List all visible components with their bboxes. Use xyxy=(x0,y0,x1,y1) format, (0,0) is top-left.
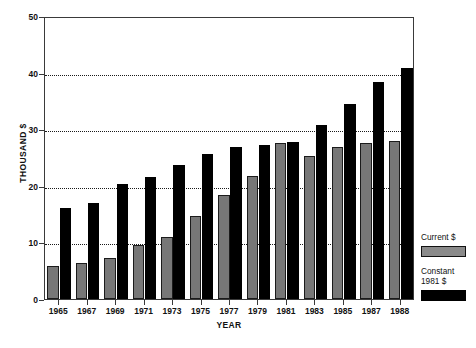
x-tick-label: 1969 xyxy=(106,306,125,316)
bar-constant xyxy=(373,82,384,299)
x-tick-label: 1965 xyxy=(49,306,68,316)
bar-current xyxy=(247,176,258,299)
bar-constant xyxy=(173,165,184,299)
bar-current xyxy=(47,266,58,299)
bar-constant xyxy=(344,104,355,299)
bar-chart: THOUSAND $ 01020304050 19651967196919711… xyxy=(0,0,476,348)
x-tick-label: 1977 xyxy=(220,306,239,316)
x-tick-label: 1981 xyxy=(276,306,295,316)
bar-current xyxy=(218,195,229,299)
bar-constant xyxy=(88,203,99,299)
bar-current xyxy=(133,245,144,299)
bar-current xyxy=(304,156,315,299)
x-tick-label: 1987 xyxy=(362,306,381,316)
legend: Current $Constant 1981 $ xyxy=(421,232,476,310)
x-tick-label: 1967 xyxy=(77,306,96,316)
x-tick-mark xyxy=(400,300,401,305)
bar-group xyxy=(275,18,299,299)
bar-constant xyxy=(202,154,213,299)
bar-current xyxy=(275,143,286,299)
bar-current xyxy=(190,216,201,299)
legend-swatch-constant xyxy=(421,290,466,301)
bar-constant xyxy=(401,68,412,299)
bar-group xyxy=(190,18,214,299)
legend-swatch-current xyxy=(421,246,466,257)
bar-group xyxy=(360,18,384,299)
x-tick-mark xyxy=(314,300,315,305)
x-tick-label: 1975 xyxy=(191,306,210,316)
bar-group xyxy=(218,18,242,299)
bar-constant xyxy=(230,147,241,299)
y-tick-label: 50 xyxy=(8,12,38,22)
bar-group xyxy=(389,18,413,299)
bar-group xyxy=(76,18,100,299)
plot-area xyxy=(44,17,414,300)
legend-label: Current $ xyxy=(421,232,476,243)
bar-group xyxy=(304,18,328,299)
y-tick-label: 10 xyxy=(8,238,38,248)
x-tick-mark xyxy=(201,300,202,305)
y-tick-label: 0 xyxy=(8,295,38,305)
x-tick-mark xyxy=(172,300,173,305)
y-tick-label: 40 xyxy=(8,69,38,79)
bar-current xyxy=(332,147,343,299)
bar-constant xyxy=(117,184,128,299)
bar-current xyxy=(389,141,400,299)
bar-group xyxy=(332,18,356,299)
x-tick-label: 1979 xyxy=(248,306,267,316)
legend-entry: Current $ xyxy=(421,232,476,257)
bar-constant xyxy=(259,145,270,299)
x-tick-mark xyxy=(115,300,116,305)
bar-group xyxy=(104,18,128,299)
bar-current xyxy=(360,143,371,299)
x-tick-mark xyxy=(286,300,287,305)
legend-label: Constant 1981 $ xyxy=(421,266,476,287)
bar-current xyxy=(104,258,115,299)
legend-entry: Constant 1981 $ xyxy=(421,266,476,301)
x-tick-mark xyxy=(257,300,258,305)
y-axis-label: THOUSAND $ xyxy=(18,108,28,198)
x-tick-label: 1985 xyxy=(333,306,352,316)
bar-group xyxy=(161,18,185,299)
x-tick-label: 1973 xyxy=(163,306,182,316)
x-tick-mark xyxy=(371,300,372,305)
bar-current xyxy=(76,263,87,299)
bar-group xyxy=(247,18,271,299)
bar-constant xyxy=(145,177,156,299)
bar-group xyxy=(47,18,71,299)
x-axis-label: YEAR xyxy=(44,320,414,330)
x-tick-label: 1988 xyxy=(390,306,409,316)
y-tick-mark xyxy=(39,300,44,301)
x-tick-mark xyxy=(58,300,59,305)
x-tick-mark xyxy=(144,300,145,305)
bar-current xyxy=(161,237,172,299)
x-tick-mark xyxy=(87,300,88,305)
x-tick-mark xyxy=(343,300,344,305)
bar-constant xyxy=(60,208,71,299)
bar-constant xyxy=(287,142,298,299)
x-tick-label: 1983 xyxy=(305,306,324,316)
bar-group xyxy=(133,18,157,299)
x-tick-label: 1971 xyxy=(134,306,153,316)
x-tick-mark xyxy=(229,300,230,305)
bar-constant xyxy=(316,125,327,299)
